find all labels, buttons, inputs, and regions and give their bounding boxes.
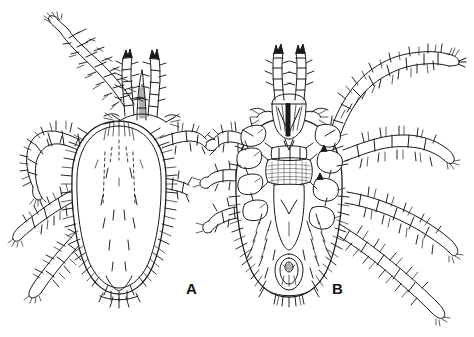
- illustration-canvas: A: [0, 0, 474, 337]
- anal-plate: [275, 254, 303, 290]
- panel-label-a: A: [186, 280, 197, 297]
- figure-plate: A: [0, 0, 474, 337]
- panel-label-b: B: [332, 280, 343, 297]
